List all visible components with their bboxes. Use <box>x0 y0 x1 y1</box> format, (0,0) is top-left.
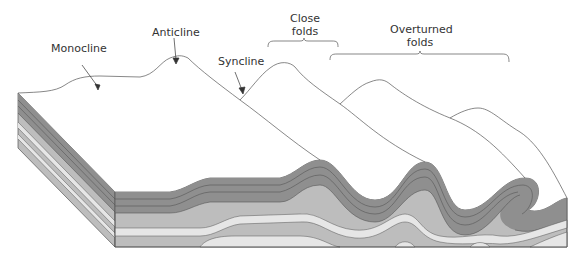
overturned-folds-line1: Overturned <box>390 23 450 36</box>
front-face <box>115 160 567 247</box>
overturned-folds-line2: folds <box>390 36 450 49</box>
overturned-folds-label: Overturned folds <box>390 23 450 49</box>
syncline-label: Syncline <box>218 55 264 68</box>
fold-block-diagram <box>0 0 579 263</box>
close-folds-line2: folds <box>288 25 322 38</box>
braces <box>268 38 509 62</box>
close-folds-line1: Close <box>288 12 322 25</box>
close-folds-brace-icon <box>268 38 338 47</box>
left-face <box>18 93 115 247</box>
anticline-label: Anticline <box>152 26 200 39</box>
close-folds-label: Close folds <box>288 12 322 38</box>
overturned-folds-brace-icon <box>330 51 509 62</box>
monocline-label: Monocline <box>51 42 107 55</box>
syncline-arrow-icon <box>235 72 242 90</box>
